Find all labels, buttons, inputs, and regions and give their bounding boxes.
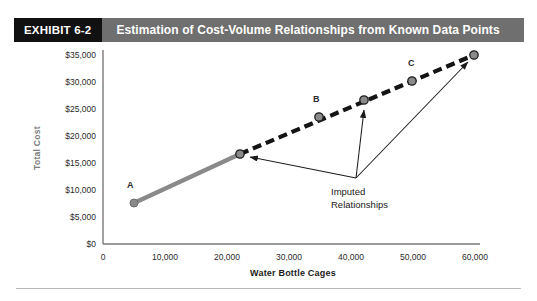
x-tick-label: 60,000 [455,252,495,262]
y-tick-label: $25,000 [44,104,96,114]
series-known-solid [134,154,240,203]
series-imputed-dashed [240,55,474,154]
x-axis-title: Water Bottle Cages [193,268,393,278]
annotation-line-1: Imputed [331,186,388,199]
data-point-label-b: B [313,94,320,104]
y-tick-label: $0 [44,239,96,249]
exhibit-figure: EXHIBIT 6-2 Estimation of Cost-Volume Re… [0,0,537,301]
y-tick-label: $35,000 [44,50,96,60]
annotation-leader-lines [250,62,468,178]
y-tick-label: $10,000 [44,185,96,195]
x-tick-label: 50,000 [393,252,433,262]
annotation-imputed-relationships: Imputed Relationships [331,186,388,211]
x-tick-label: 20,000 [207,252,247,262]
bottom-divider [16,288,521,289]
data-point-label-a: A [127,180,134,190]
y-tick-label: $5,000 [44,212,96,222]
y-tick-label: $30,000 [44,77,96,87]
x-tick-label: 40,000 [331,252,371,262]
x-tick-label: 30,000 [269,252,309,262]
x-tick-label: 10,000 [145,252,185,262]
y-tick-label: $15,000 [44,158,96,168]
y-axis-title: Total Cost [32,108,42,188]
x-tick-label: 0 [83,252,123,262]
axis-lines [103,50,480,244]
y-tick-label: $20,000 [44,131,96,141]
annotation-line-2: Relationships [331,199,388,212]
data-point-label-c: C [408,58,415,68]
